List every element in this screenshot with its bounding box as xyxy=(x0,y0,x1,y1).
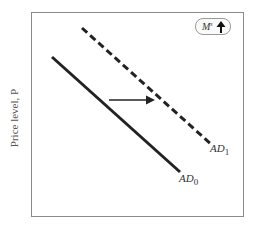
ad1-label: AD1 xyxy=(210,142,229,157)
money-supply-badge: Ms xyxy=(195,18,231,35)
ad0-label: AD0 xyxy=(179,172,198,187)
ad1-curve xyxy=(82,28,212,145)
ad0-curve xyxy=(52,57,180,172)
shift-arrow-head xyxy=(146,96,155,105)
up-arrow-icon xyxy=(196,19,232,36)
